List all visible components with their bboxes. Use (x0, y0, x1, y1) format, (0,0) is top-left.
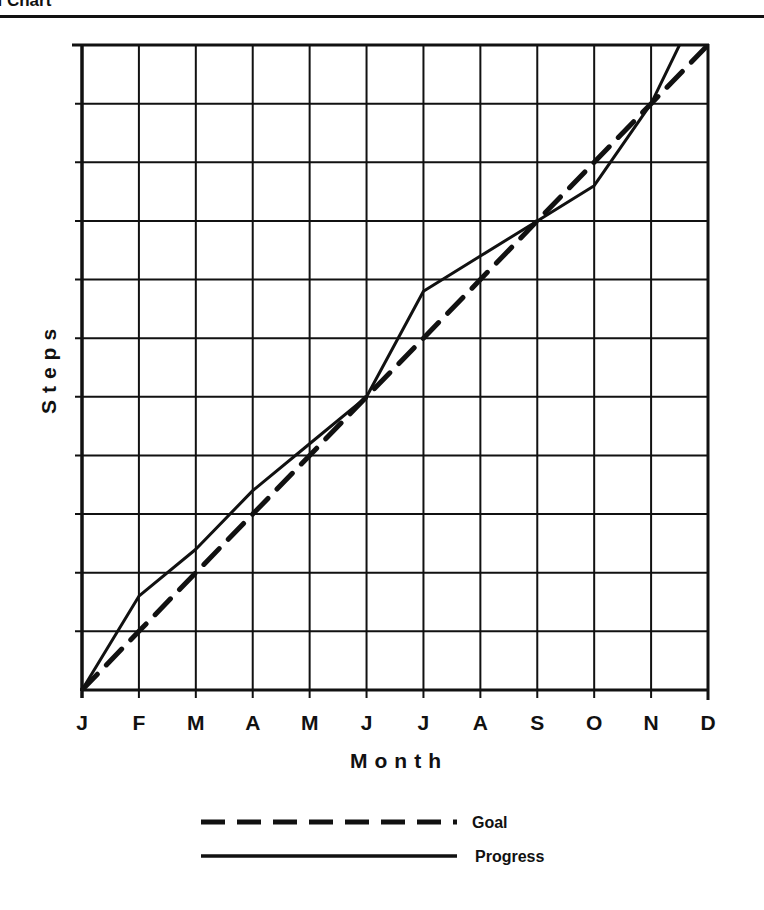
x-tick-label: N (644, 711, 659, 734)
legend-goal-label: Goal (472, 814, 508, 831)
x-tick-labels: JFMAMJJASOND (76, 711, 715, 734)
x-tick-label: A (473, 711, 488, 734)
x-tick-label: M (301, 711, 319, 734)
x-tick-label: J (418, 711, 430, 734)
x-tick-label: D (700, 711, 715, 734)
y-axis-title: Steps (37, 322, 60, 414)
legend-progress-label: Progress (475, 848, 544, 865)
series-line-goal (82, 45, 708, 690)
x-tick-label: J (76, 711, 88, 734)
legend: Goal Progress (201, 814, 544, 865)
x-tick-label: O (586, 711, 602, 734)
x-tick-label: S (530, 711, 544, 734)
x-tick-label: F (132, 711, 145, 734)
x-tick-label: J (361, 711, 373, 734)
x-tick-label: A (245, 711, 260, 734)
x-tick-label: M (187, 711, 205, 734)
x-axis-title: Month (350, 749, 448, 772)
chart: JFMAMJJASOND Month Steps Goal Progress (0, 0, 764, 910)
